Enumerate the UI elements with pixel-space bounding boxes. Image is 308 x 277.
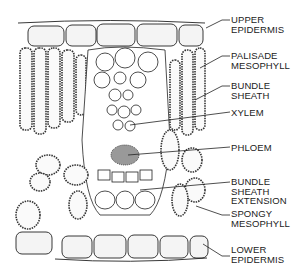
palisade-mesophyll-left xyxy=(20,48,86,134)
upper-epidermis-layer xyxy=(18,21,205,47)
label-palisade-mesophyll: PALISADEMESOPHYLL xyxy=(231,51,290,70)
lower-epidermis-layer xyxy=(16,232,208,261)
palisade-mesophyll-right xyxy=(170,48,205,135)
vascular-bundle xyxy=(82,47,170,215)
label-upper-epidermis: UPPEREPIDERMIS xyxy=(231,15,284,34)
leaf-cross-section-diagram xyxy=(0,0,308,277)
label-spongy-mesophyll: SPONGYMESOPHYLL xyxy=(231,209,290,228)
label-bundle-sheath: BUNDLESHEATH xyxy=(231,81,270,100)
label-bundle-sheath-extension: BUNDLESHEATHEXTENSION xyxy=(231,177,287,206)
label-xylem: XYLEM xyxy=(231,108,264,118)
label-phloem: PHLOEM xyxy=(231,143,272,153)
label-lower-epidermis: LOWEREPIDERMIS xyxy=(231,245,284,264)
